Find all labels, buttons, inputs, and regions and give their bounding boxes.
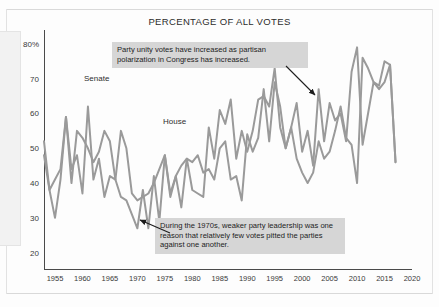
- x-tick-1965: 1965: [102, 274, 119, 283]
- annotation-note-1970s: During the 1970s, weaker party leadershi…: [155, 218, 345, 254]
- x-tick-1970: 1970: [129, 274, 146, 283]
- page-border-right: [432, 9, 433, 294]
- x-tick-1980: 1980: [184, 274, 201, 283]
- annotation-note-increase: Party unity votes have increased as part…: [112, 42, 308, 68]
- x-tick-2010: 2010: [349, 274, 366, 283]
- x-tick-2000: 2000: [294, 274, 311, 283]
- page-border-bottom: [6, 293, 433, 294]
- x-tick-1960: 1960: [74, 274, 91, 283]
- series-label-senate: Senate: [84, 74, 109, 83]
- x-tick-2020: 2020: [404, 274, 421, 283]
- x-tick-1990: 1990: [239, 274, 256, 283]
- side-panel: [0, 31, 21, 246]
- x-tick-1995: 1995: [266, 274, 283, 283]
- series-house: [44, 58, 396, 228]
- y-tick-30: 30: [30, 213, 39, 222]
- x-tick-1985: 1985: [211, 274, 228, 283]
- x-tick-1975: 1975: [156, 274, 173, 283]
- series-senate: [44, 47, 396, 217]
- chart-page: PERCENTAGE OF ALL VOTES 80%706050403020 …: [0, 0, 439, 307]
- page-border-top: [6, 9, 433, 10]
- y-tick-50: 50: [30, 144, 39, 153]
- y-tick-20: 20: [30, 248, 39, 257]
- y-tick-40: 40: [30, 179, 39, 188]
- series-label-house: House: [163, 117, 186, 126]
- y-tick-70: 70: [30, 74, 39, 83]
- y-tick-60: 60: [30, 109, 39, 118]
- x-tick-1955: 1955: [47, 274, 64, 283]
- x-tick-2015: 2015: [376, 274, 393, 283]
- chart-title: PERCENTAGE OF ALL VOTES: [0, 16, 439, 27]
- y-tick-80: 80%: [23, 39, 39, 48]
- x-tick-2005: 2005: [321, 274, 338, 283]
